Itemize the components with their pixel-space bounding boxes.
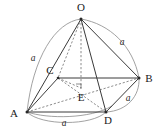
geometry-figure: O B C A D E a a a a bbox=[0, 0, 158, 134]
vertex-label-e: E bbox=[78, 91, 85, 103]
edge-ce bbox=[58, 78, 81, 88]
edge-label-bd: a bbox=[126, 93, 131, 103]
edge-label-ob: a bbox=[120, 37, 125, 47]
edge-od bbox=[81, 19, 106, 112]
vertex-label-d: D bbox=[104, 114, 112, 126]
vertex-dot-o bbox=[80, 18, 83, 21]
vertex-label-c: C bbox=[46, 64, 53, 76]
vertex-dot-c bbox=[57, 77, 60, 80]
arc-ad bbox=[27, 112, 106, 123]
edge-label-ad: a bbox=[62, 118, 67, 128]
vertex-dot-a bbox=[26, 111, 29, 114]
edge-label-oa: a bbox=[31, 53, 36, 63]
arc-base-back bbox=[27, 106, 112, 117]
vertex-label-b: B bbox=[145, 72, 152, 84]
vertex-dot-b bbox=[138, 77, 141, 80]
edge-ob bbox=[81, 19, 139, 78]
geometry-canvas: O B C A D E a a a a bbox=[0, 0, 158, 134]
vertex-label-a: A bbox=[10, 107, 18, 119]
edge-db bbox=[106, 78, 139, 112]
vertex-label-o: O bbox=[77, 1, 85, 13]
edge-oa bbox=[27, 19, 81, 112]
edge-length-labels: a a a a bbox=[31, 37, 131, 128]
